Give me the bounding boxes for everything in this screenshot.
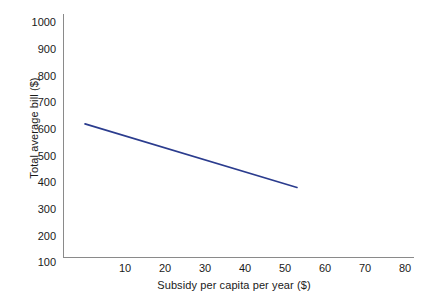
plot-area bbox=[0, 0, 422, 299]
line-chart: Total average bill ($) Subsidy per capit… bbox=[0, 0, 422, 299]
data-series-line bbox=[85, 124, 297, 188]
